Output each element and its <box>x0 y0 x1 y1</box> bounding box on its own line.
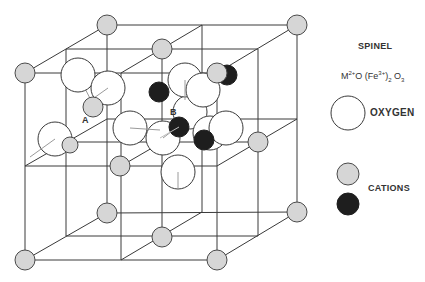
cation-a-atom <box>287 202 307 222</box>
legend-oxygen-label: OXYGEN <box>370 107 415 118</box>
cation-a-atom <box>110 156 130 176</box>
cation-a-atom <box>207 250 227 270</box>
oxygen-atom <box>61 58 95 92</box>
cation-b-atom <box>194 130 214 150</box>
cation-a-atom <box>207 63 227 83</box>
site-label-b: B <box>170 107 177 117</box>
formula-o2: O <box>392 71 402 81</box>
cation-a-atom <box>97 203 117 223</box>
cation-b-atom <box>149 82 169 102</box>
legend-formula: M2+O (Fe3+)2 O3 <box>341 70 404 83</box>
site-label-a: A <box>82 115 89 125</box>
legend-cation-a-icon <box>337 163 359 185</box>
legend-title: SPINEL <box>358 41 392 51</box>
formula-sub3: 3 <box>401 77 404 83</box>
cation-a-atom <box>248 132 268 152</box>
cation-a-atom <box>15 250 35 270</box>
cation-a-atom <box>152 227 172 247</box>
cation-a-atom <box>15 63 35 83</box>
formula-m: M <box>341 71 349 81</box>
legend-cation-b-icon <box>337 193 359 215</box>
legend-oxygen-icon <box>331 96 365 130</box>
cation-a-atom <box>97 15 117 35</box>
legend-symbols <box>331 96 365 215</box>
cation-a-atom <box>287 15 307 35</box>
cation-a-atom <box>83 97 103 117</box>
cation-a-atom <box>152 39 172 59</box>
cation-a-atom <box>62 137 78 153</box>
legend-cations-label: CATIONS <box>368 183 410 193</box>
formula-o1: O (Fe <box>355 71 378 81</box>
